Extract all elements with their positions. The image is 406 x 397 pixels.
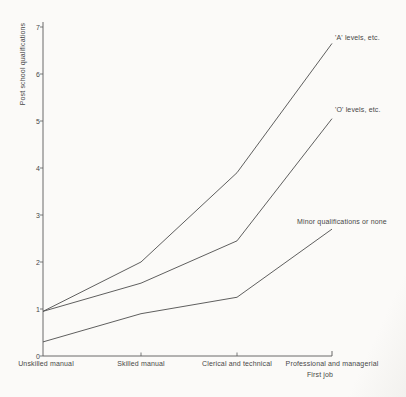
x-axis-title: First job xyxy=(307,370,333,379)
plot-area xyxy=(0,0,406,397)
series-line xyxy=(43,43,332,311)
x-category-label: Unskilled manual xyxy=(18,359,74,368)
figure: Post school qualifications First job 'A'… xyxy=(0,0,406,397)
y-tick-label: 7 xyxy=(36,23,40,32)
y-tick-label: 6 xyxy=(36,70,40,79)
x-category-label: Skilled manual xyxy=(117,359,165,368)
series-label-o-levels: 'O' levels, etc. xyxy=(335,105,381,114)
y-tick-label: 3 xyxy=(36,211,40,220)
series-label-minor-qualifications: Minor qualifications or none xyxy=(297,217,387,226)
y-tick-label: 1 xyxy=(36,305,40,314)
y-axis-title: Post school qualifications xyxy=(18,23,27,106)
y-tick-label: 5 xyxy=(36,117,40,126)
x-category-label: Clerical and technical xyxy=(202,359,272,368)
y-tick-label: 4 xyxy=(36,164,40,173)
series-line xyxy=(43,119,332,312)
series-label-a-levels: 'A' levels, etc. xyxy=(335,33,380,42)
x-category-label: Professional and managerial xyxy=(286,359,379,368)
series-line xyxy=(43,229,332,342)
y-tick-label: 2 xyxy=(36,258,40,267)
